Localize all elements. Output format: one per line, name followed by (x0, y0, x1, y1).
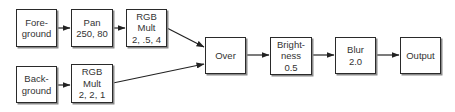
edge-rgbmult-bottom-over (113, 64, 204, 83)
node-label-line: 2, 2, 1 (79, 89, 105, 101)
node-label-line: Bright- (277, 39, 305, 51)
compositing-node-graph: Fore- ground Pan 250, 80 RGB Mult 2, .5,… (0, 0, 455, 112)
node-label-line: ground (22, 85, 52, 97)
node-label-line: RGB (136, 11, 157, 23)
node-output: Output (400, 37, 441, 74)
node-label-line: Mult (138, 22, 156, 34)
node-label-line: Pan (84, 17, 101, 29)
node-label-line: Back- (24, 73, 48, 85)
node-label-line: ness (281, 50, 301, 62)
node-rgb-mult-bottom: RGB Mult 2, 2, 1 (71, 64, 113, 103)
node-label-line: 250, 80 (76, 28, 108, 40)
node-label-line: ground (22, 28, 52, 40)
node-pan: Pan 250, 80 (71, 9, 113, 47)
node-brightness: Bright- ness 0.5 (270, 37, 312, 75)
node-blur: Blur 2.0 (335, 37, 376, 74)
node-label-line: Fore- (25, 17, 48, 29)
node-label-line: Mult (83, 78, 101, 90)
node-rgb-mult-top: RGB Mult 2, .5, 4 (126, 9, 167, 47)
node-label-line: 0.5 (284, 62, 297, 74)
node-over: Over (205, 37, 246, 74)
node-label-line: 2, .5, 4 (132, 34, 161, 46)
node-label-line: RGB (82, 66, 103, 78)
node-label-line: Output (406, 50, 435, 62)
node-label-line: 2.0 (349, 56, 362, 68)
node-background: Back- ground (16, 66, 57, 103)
node-foreground: Fore- ground (16, 9, 57, 47)
node-label-line: Over (215, 50, 236, 62)
node-label-line: Blur (347, 44, 364, 56)
edge-rgbmult-top-over (167, 28, 204, 47)
